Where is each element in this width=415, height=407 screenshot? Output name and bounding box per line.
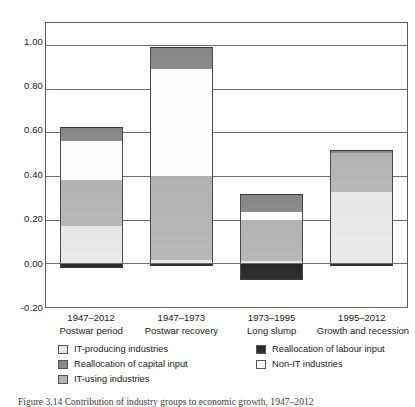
bar-segment[interactable] bbox=[60, 226, 123, 263]
legend-item-it-using-industries: IT-using industries bbox=[58, 374, 149, 385]
bar-segment[interactable] bbox=[330, 153, 393, 192]
y-tick-3: 0.60 bbox=[24, 124, 43, 135]
bar-1[interactable] bbox=[60, 23, 123, 307]
legend-label-non-it: Non-IT industries bbox=[272, 359, 343, 370]
bar-top-outline bbox=[60, 127, 123, 128]
legend-swatch-icon-it-producing bbox=[58, 345, 68, 354]
bar-segment[interactable] bbox=[150, 69, 213, 176]
legend-item-reallocation-of-capital-input: Reallocation of capital input bbox=[58, 359, 188, 370]
bar-bottom-outline bbox=[60, 267, 123, 268]
bar-segment[interactable] bbox=[240, 263, 303, 279]
bar-top-outline bbox=[330, 150, 393, 151]
legend-swatch-icon-labour bbox=[256, 345, 266, 354]
legend-item-it-producing-industries: IT-producing industries bbox=[58, 344, 168, 355]
bar-segment[interactable] bbox=[60, 180, 123, 226]
x-label-name: Postwar period bbox=[46, 325, 136, 338]
y-tick-6: 0.00 bbox=[24, 258, 43, 269]
bar-top-outline bbox=[150, 47, 213, 48]
zero-baseline bbox=[240, 263, 303, 264]
legend-row-2: Reallocation of capital input Non-IT ind… bbox=[58, 359, 408, 374]
x-axis-label-2: 1947–1973Postwar recovery bbox=[136, 312, 226, 337]
x-label-name: Long slump bbox=[227, 325, 317, 338]
bar-segment[interactable] bbox=[240, 194, 303, 211]
zero-baseline bbox=[60, 263, 123, 264]
bar-segment[interactable] bbox=[60, 141, 123, 180]
y-tick-2: 0.80 bbox=[24, 80, 43, 91]
legend-item-non-it-industries: Non-IT industries bbox=[256, 359, 343, 370]
bar-segment[interactable] bbox=[240, 212, 303, 220]
x-axis-label-1: 1947–2012Postwar period bbox=[46, 312, 136, 337]
x-label-period: 1973–1995 bbox=[227, 312, 317, 325]
x-label-period: 1995–2012 bbox=[317, 312, 407, 325]
plot-area bbox=[45, 22, 408, 308]
y-tick-7: -0.20 bbox=[21, 302, 43, 313]
x-label-period: 1947–2012 bbox=[46, 312, 136, 325]
legend-label-it-producing: IT-producing industries bbox=[74, 344, 168, 355]
y-tick-5: 0.20 bbox=[24, 213, 43, 224]
legend-label-capital: Reallocation of capital input bbox=[74, 359, 188, 370]
legend-row-3: IT-using industries bbox=[58, 374, 408, 389]
bar-2[interactable] bbox=[150, 23, 213, 307]
bar-segment[interactable] bbox=[330, 192, 393, 263]
legend-item-reallocation-of-labour-input: Reallocation of labour input bbox=[256, 344, 385, 355]
x-label-period: 1947–1973 bbox=[136, 312, 226, 325]
figure-caption: Figure 3.14 Contribution of industry gro… bbox=[18, 396, 408, 407]
bar-segment[interactable] bbox=[150, 47, 213, 69]
legend-row-1: IT-producing industries Reallocation of … bbox=[58, 344, 408, 359]
y-tick-4: 0.40 bbox=[24, 169, 43, 180]
y-tick-1: 1.00 bbox=[24, 36, 43, 47]
x-label-name: Postwar recovery bbox=[136, 325, 226, 338]
bar-4[interactable] bbox=[330, 23, 393, 307]
x-axis-label-4: 1995–2012Growth and recession bbox=[317, 312, 407, 337]
legend-swatch-icon-non-it bbox=[256, 360, 266, 369]
zero-baseline bbox=[330, 263, 393, 264]
zero-baseline bbox=[150, 263, 213, 264]
legend-swatch-icon-it-using bbox=[58, 375, 68, 384]
bar-bottom-outline bbox=[150, 265, 213, 266]
x-label-name: Growth and recession bbox=[317, 325, 407, 338]
legend: IT-producing industries Reallocation of … bbox=[58, 344, 408, 389]
bar-segment[interactable] bbox=[150, 176, 213, 260]
bar-segment[interactable] bbox=[240, 220, 303, 262]
legend-label-it-using: IT-using industries bbox=[74, 374, 149, 385]
legend-label-labour: Reallocation of labour input bbox=[272, 344, 385, 355]
x-axis-label-3: 1973–1995Long slump bbox=[227, 312, 317, 337]
bar-3[interactable] bbox=[240, 23, 303, 307]
gridline--0.20 bbox=[46, 307, 407, 308]
bar-bottom-outline bbox=[330, 265, 393, 266]
bar-bottom-outline bbox=[240, 279, 303, 280]
bar-segment[interactable] bbox=[60, 127, 123, 141]
bar-top-outline bbox=[240, 194, 303, 195]
legend-swatch-icon-capital bbox=[58, 360, 68, 369]
